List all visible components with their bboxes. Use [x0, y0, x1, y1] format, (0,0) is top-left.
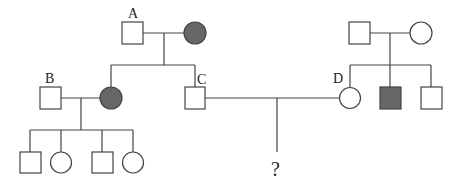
lines	[30, 33, 431, 152]
individual-gen3-2-female-unaffected	[51, 152, 72, 173]
individual-C-male-unaffected	[185, 87, 205, 109]
individual-gen3-1-male-unaffected	[20, 152, 41, 173]
individual-B-spouse-female-affected	[100, 87, 122, 109]
individual-A-male-unaffected	[122, 22, 143, 44]
individual-D-brother-male-affected	[380, 87, 401, 109]
pedigree-chart: A B C D ?	[0, 0, 460, 187]
unknown-offspring-label: ?	[271, 158, 280, 180]
label-D: D	[333, 71, 343, 86]
individual-gen3-4-female-unaffected	[123, 152, 144, 173]
individual-B-male-unaffected	[40, 87, 61, 109]
individual-D-female-unaffected	[340, 88, 361, 109]
individual-right-grandfather-male-unaffected	[349, 22, 370, 44]
individual-gen3-3-male-unaffected	[92, 152, 113, 173]
label-C: C	[197, 72, 206, 87]
label-A: A	[128, 6, 139, 21]
individual-A-spouse-female-affected	[184, 22, 206, 44]
label-B: B	[45, 71, 54, 86]
individual-D-brother-male-unaffected	[421, 87, 442, 109]
individual-right-grandmother-female-unaffected	[410, 22, 432, 44]
